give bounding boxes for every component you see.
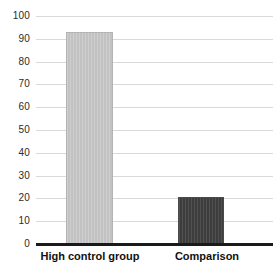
plot-area	[36, 16, 273, 244]
y-tick-label-50: 50	[0, 125, 30, 135]
gridline-100	[36, 16, 273, 17]
y-tick-label-60: 60	[0, 102, 30, 112]
y-tick-label-20: 20	[0, 193, 30, 203]
y-tick-label-10: 10	[0, 216, 30, 226]
y-tick-label-0: 0	[0, 239, 30, 249]
y-tick-label-90: 90	[0, 34, 30, 44]
y-tick-label-40: 40	[0, 148, 30, 158]
bar-chart: 100 90 80 70 60 50 40 30 20 10 0 High co…	[0, 0, 279, 267]
x-label-comparison: Comparison	[150, 250, 264, 263]
y-tick-label-100: 100	[0, 11, 30, 21]
y-tick-label-80: 80	[0, 57, 30, 67]
bar-comparison	[178, 197, 224, 244]
bar-high-control-group	[66, 32, 113, 244]
y-tick-label-70: 70	[0, 79, 30, 89]
y-tick-label-30: 30	[0, 171, 30, 181]
x-label-high-control-group: High control group	[30, 250, 150, 263]
x-axis-line	[36, 243, 273, 246]
